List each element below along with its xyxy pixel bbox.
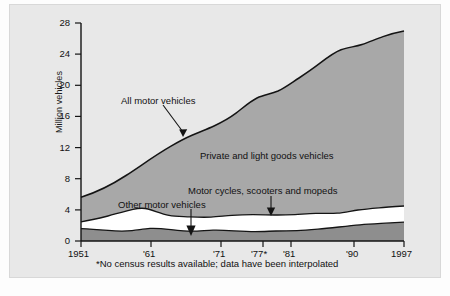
label-all-motor-vehicles: All motor vehicles (121, 95, 195, 106)
stacked-area-chart (10, 5, 440, 277)
y-tick-label-8: 8 (48, 174, 70, 184)
y-tick-label-4: 4 (48, 205, 70, 215)
y-axis-ticks (75, 23, 81, 241)
x-tick-label-1951: 1951 (68, 249, 89, 259)
chart-plate: Million vehicles 0 4 8 12 16 20 24 28 19… (9, 4, 441, 278)
y-axis-title: Million vehicles (54, 47, 64, 157)
footnote-text: *No census results available; data have … (96, 258, 338, 269)
label-private-and-light-goods: Private and light goods vehicles (200, 150, 334, 161)
label-other-motor-vehicles: Other motor vehicles (118, 199, 206, 210)
arrow-all-motor-vehicles (163, 105, 187, 137)
label-motor-cycles: Motor cycles, scooters and mopeds (188, 185, 337, 196)
y-tick-label-16: 16 (48, 111, 70, 121)
x-tick-label-90: '90 (346, 249, 358, 259)
x-tick-label-1997: 1997 (391, 249, 412, 259)
y-tick-label-0: 0 (48, 236, 70, 246)
y-tick-label-24: 24 (48, 49, 70, 59)
y-tick-label-28: 28 (48, 18, 70, 28)
figure-container: Million vehicles 0 4 8 12 16 20 24 28 19… (0, 0, 450, 296)
y-tick-label-20: 20 (48, 80, 70, 90)
x-axis-ticks (81, 241, 404, 247)
y-tick-label-12: 12 (48, 143, 70, 153)
